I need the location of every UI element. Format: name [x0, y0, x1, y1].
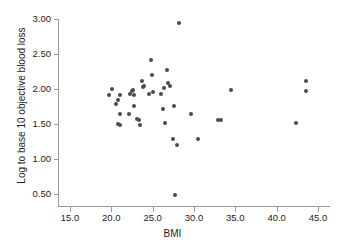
x-tick-label: 30.0 — [174, 213, 214, 223]
data-point — [172, 104, 176, 108]
data-point — [189, 112, 193, 116]
data-point — [294, 121, 298, 125]
data-point — [131, 88, 135, 92]
data-point — [132, 104, 136, 108]
x-tick-label: 40.0 — [257, 213, 297, 223]
data-point — [142, 84, 146, 88]
x-tick-label: 45.0 — [298, 213, 338, 223]
data-point — [138, 123, 142, 127]
x-axis-title: BMI — [0, 228, 345, 239]
x-tick-label: 35.0 — [215, 213, 255, 223]
data-point — [173, 193, 177, 197]
data-point — [127, 112, 131, 116]
data-point — [107, 93, 111, 97]
data-point — [165, 68, 169, 72]
data-point — [163, 121, 167, 125]
x-tick-label: 25.0 — [133, 213, 173, 223]
scatter-chart: 0.501.001.502.002.503.00 15.020.025.030.… — [0, 0, 345, 251]
data-point — [177, 21, 181, 25]
data-point — [159, 92, 163, 96]
data-point — [137, 118, 141, 122]
x-tick-label: 15.0 — [50, 213, 90, 223]
data-point — [161, 107, 165, 111]
y-axis-title: Log to base 10 objective blood loss — [16, 11, 27, 201]
x-tick-label: 20.0 — [91, 213, 131, 223]
data-point — [171, 137, 175, 141]
plot-area — [58, 14, 328, 207]
data-point — [116, 98, 120, 102]
data-point — [150, 73, 154, 77]
data-point — [162, 86, 166, 90]
